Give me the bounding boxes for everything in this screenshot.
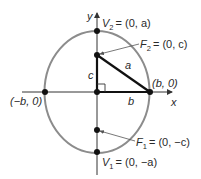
point-v1 [94,149,100,155]
side-c-label: c [88,69,94,81]
ellipse-diagram-svg: y x V2= (0, a) F2= (0, c) c a b (b, 0) (… [0,0,201,179]
v2-label: V2= (0, a) [102,17,151,32]
point-v2 [94,28,100,34]
right-vertex-label: (b, 0) [152,77,178,89]
point-right-vertex [147,89,153,95]
point-origin [94,89,100,95]
y-axis-label: y [86,10,94,22]
ellipse-diagram: y x V2= (0, a) F2= (0, c) c a b (b, 0) (… [0,0,201,179]
f2-label: F2= (0, c) [140,38,187,53]
point-f1 [94,127,100,133]
f1-label: F1= (0, −c) [136,136,190,151]
x-axis-label: x [170,96,177,108]
v1-label: V1= (0, −a) [102,156,157,171]
point-left-vertex [42,89,48,95]
f1-leader-arrow [100,131,135,141]
side-a-label: a [125,59,131,71]
left-vertex-label: (−b, 0) [10,95,42,107]
point-f2 [94,52,100,58]
side-b-label: b [128,95,134,107]
